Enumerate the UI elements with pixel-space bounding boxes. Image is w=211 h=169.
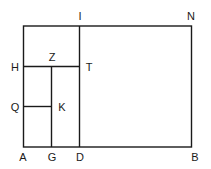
label-H: H (11, 61, 19, 73)
outer-rectangle (24, 26, 192, 147)
label-G: G (48, 151, 57, 163)
label-D: D (76, 151, 84, 163)
label-T: T (86, 61, 93, 73)
geometry-diagram: I N Z H T Q K A G D B (0, 0, 211, 169)
label-A: A (19, 151, 27, 163)
label-Z: Z (49, 51, 56, 63)
label-Q: Q (11, 101, 20, 113)
label-N: N (187, 10, 195, 22)
label-K: K (58, 101, 66, 113)
label-B: B (191, 151, 198, 163)
label-I: I (78, 10, 81, 22)
